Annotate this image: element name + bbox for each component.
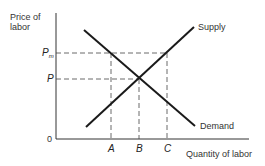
demand-curve xyxy=(84,30,195,126)
supply-label: Supply xyxy=(198,22,226,32)
pm-label: Pm xyxy=(42,47,54,59)
pm-label-sub: m xyxy=(49,53,54,59)
supply-demand-diagram: Price of labor Quantity of labor 0 Pm P … xyxy=(0,0,265,166)
demand-label: Demand xyxy=(200,121,234,131)
a-label: A xyxy=(107,143,115,154)
c-label: C xyxy=(164,143,172,154)
y-axis-label-line2: labor xyxy=(10,22,30,32)
p-label: P xyxy=(47,73,54,84)
x-axis-label: Quantity of labor xyxy=(186,149,252,159)
origin-label: 0 xyxy=(47,134,52,144)
b-label: B xyxy=(136,143,143,154)
y-axis-label-line1: Price of xyxy=(10,12,41,22)
